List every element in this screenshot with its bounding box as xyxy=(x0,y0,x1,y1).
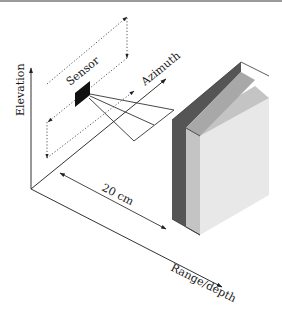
dotted-bottom-line xyxy=(47,91,134,158)
distance-arrow xyxy=(60,173,166,229)
beam-footprint xyxy=(134,110,174,141)
sensor-beams xyxy=(89,94,174,141)
scan-plane xyxy=(47,17,134,158)
target-box xyxy=(172,62,269,235)
sensor-geometry-diagram: Elevation Sensor Azimuth 20 cm Range/dep… xyxy=(0,0,282,315)
beam-bottom xyxy=(89,98,134,141)
sensor xyxy=(75,81,90,107)
range-label: Range/depth xyxy=(169,261,239,305)
distance-label: 20 cm xyxy=(100,181,137,208)
elevation-label: Elevation xyxy=(14,64,27,116)
